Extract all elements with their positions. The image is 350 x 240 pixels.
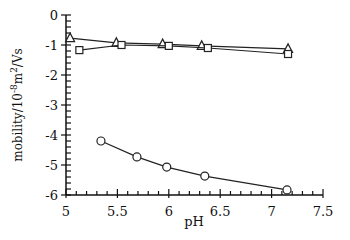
y-tick-label: -5	[45, 158, 58, 173]
y-axis-label: mobility/10-8m2/Vs	[9, 48, 25, 162]
square-marker	[76, 47, 83, 54]
x-tick-label: 5.5	[107, 204, 128, 219]
y-tick-label: -2	[45, 68, 58, 83]
square-marker	[165, 42, 172, 49]
x-tick-label: 7.5	[313, 204, 334, 219]
circle-marker	[201, 172, 209, 180]
y-tick-label: -3	[45, 98, 58, 113]
y-tick-label: -1	[45, 38, 58, 53]
square-marker	[118, 42, 125, 49]
triangle-marker	[66, 33, 75, 42]
x-tick-label: 5	[62, 204, 70, 219]
series-line	[79, 45, 288, 54]
square-marker	[204, 45, 211, 52]
y-tick-label: -4	[45, 128, 58, 143]
circle-marker	[283, 186, 291, 194]
series-line	[101, 141, 287, 190]
x-tick-label: 7	[267, 204, 275, 219]
square-marker	[285, 51, 292, 58]
x-tick-label: 6	[165, 204, 173, 219]
y-tick-label: -6	[45, 188, 58, 203]
y-tick-label: 0	[50, 8, 58, 23]
series-squares	[76, 42, 292, 58]
series-circles	[97, 137, 291, 194]
series-triangles	[66, 33, 293, 52]
data-series	[66, 33, 293, 194]
circle-marker	[133, 153, 141, 161]
x-tick-label: 6.5	[210, 204, 231, 219]
circle-marker	[97, 137, 105, 145]
mobility-vs-ph-chart: 0-1-2-3-4-5-655.566.577.5 pH mobility/10…	[0, 0, 350, 240]
circle-marker	[163, 163, 171, 171]
x-axis-label: pH	[184, 214, 204, 229]
